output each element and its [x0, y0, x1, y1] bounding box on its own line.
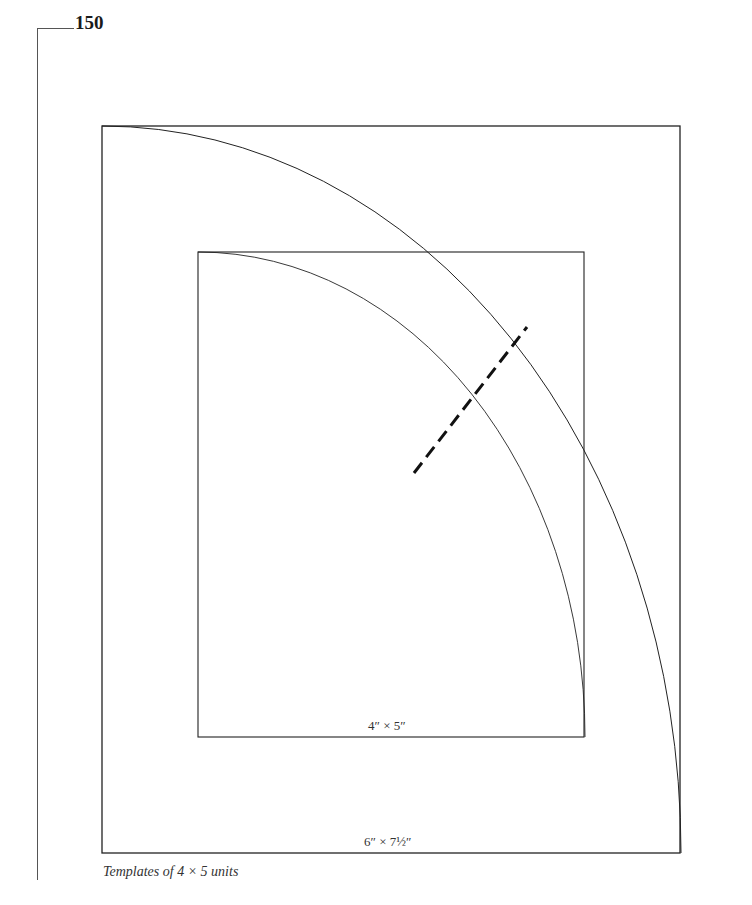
outer-rect-label: 6″ × 7½″ — [364, 834, 411, 850]
outer-template-rect — [102, 126, 680, 853]
dashed-cut-line — [414, 327, 527, 473]
outer-arc — [102, 126, 681, 853]
inner-rect-label: 4″ × 5″ — [368, 718, 406, 734]
figure-caption: Templates of 4 × 5 units — [103, 864, 238, 880]
template-figure — [0, 0, 752, 905]
inner-arc — [198, 252, 585, 737]
inner-template-rect — [198, 252, 584, 737]
